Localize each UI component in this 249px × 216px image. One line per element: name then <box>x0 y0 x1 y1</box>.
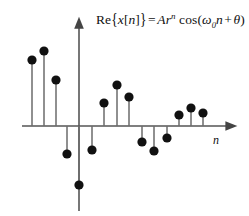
equation-brace-open: { <box>111 10 118 30</box>
stem-marker <box>74 180 83 189</box>
stem-marker <box>51 75 60 84</box>
stem-marker <box>62 149 71 158</box>
stem-marker <box>198 108 207 117</box>
axes-group <box>22 28 226 211</box>
stem-marker <box>174 110 183 119</box>
stem-marker <box>186 103 195 112</box>
equation-brace-close: } <box>140 10 147 30</box>
stem-marker <box>124 92 133 101</box>
stem-marker <box>149 146 158 155</box>
stem-marker <box>39 46 48 55</box>
stem-plot-figure: Re{x[n]}=Arn cos(ω0n+θ) n <box>0 0 249 216</box>
stem-marker <box>112 80 121 89</box>
equation-cos: cos <box>179 12 197 27</box>
equation-title: Re{x[n]}=Arn cos(ω0n+θ) <box>96 12 245 28</box>
equation-omega: ω <box>202 12 212 27</box>
stem-marker <box>27 55 36 64</box>
equation-plus: + <box>223 12 234 27</box>
equation-n-var: n <box>216 12 223 27</box>
equation-paren-close: ) <box>240 12 245 27</box>
stem-plot-canvas <box>0 0 249 216</box>
stem-marker <box>99 98 108 107</box>
equation-amplitude: A <box>157 12 165 27</box>
equation-exponent: n <box>171 11 176 21</box>
equation-equals: = <box>147 12 158 27</box>
stem-marker <box>137 137 146 146</box>
stem-marker <box>87 145 96 154</box>
equation-re: Re <box>96 12 111 27</box>
stem-marker <box>162 133 171 142</box>
x-axis-label: n <box>213 133 219 148</box>
